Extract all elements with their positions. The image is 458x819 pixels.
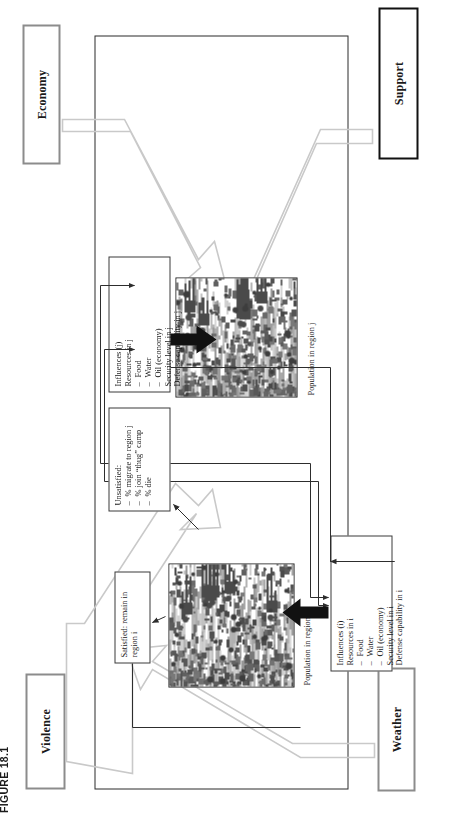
arrow-influences-j-to-region-j xyxy=(170,325,216,353)
arrow-influences-i-to-region-i xyxy=(282,598,328,626)
solid-arrows-layer xyxy=(0,0,458,819)
figure-caption: FIGURE 18.1 xyxy=(0,747,10,813)
figure-canvas: Violence Economy Weather Support xyxy=(0,0,458,819)
